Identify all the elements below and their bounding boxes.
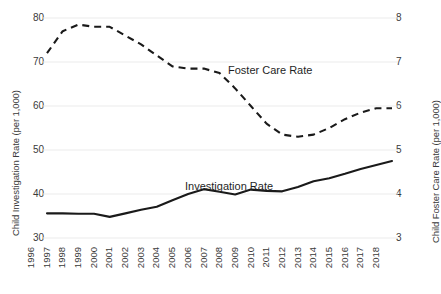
x-axis-tick-label: 2000: [88, 247, 99, 291]
x-axis-tick-label: 2008: [213, 247, 224, 291]
series-label-foster-care: Foster Care Rate: [228, 64, 312, 76]
x-axis-tick-label: 2017: [354, 247, 365, 291]
x-axis-tick-label: 2013: [292, 247, 303, 291]
x-axis-tick-label: 2002: [119, 247, 130, 291]
x-axis-tick-label: 2016: [339, 247, 350, 291]
x-axis-tick-label: 2006: [182, 247, 193, 291]
x-axis-tick-label: 2012: [276, 247, 287, 291]
gridlines: [43, 18, 398, 238]
x-axis-tick-label: 2005: [166, 247, 177, 291]
x-axis-tick-label: 1997: [41, 247, 52, 291]
x-axis-tick-label: 2007: [198, 247, 209, 291]
x-axis-tick-label: 2003: [135, 247, 146, 291]
x-axis-tick-label: 2009: [229, 247, 240, 291]
x-axis-tick-label: 1996: [25, 247, 36, 291]
x-axis-tick-label: 2011: [260, 247, 271, 291]
x-axis-tick-label: 1999: [72, 247, 83, 291]
x-axis-tick: 2018: [386, 245, 398, 291]
x-axis-tick-label: 2018: [370, 247, 381, 291]
series-line-foster-care: [47, 25, 392, 137]
x-axis-tick-label: 2015: [323, 247, 334, 291]
x-axis-tick-label: 2001: [103, 247, 114, 291]
x-axis-tick-label: 2014: [307, 247, 318, 291]
x-axis-tick-label: 2010: [245, 247, 256, 291]
x-axis-tick-label: 2004: [150, 247, 161, 291]
x-axis-tick-label: 1998: [56, 247, 67, 291]
series-label-investigation: Investigation Rate: [185, 180, 273, 192]
